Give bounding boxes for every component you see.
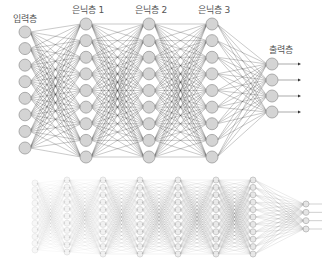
deep-layer-node <box>64 235 70 241</box>
deep-layer-node <box>100 251 106 257</box>
deep-layer-node <box>213 221 219 227</box>
hidden1-node <box>80 118 92 130</box>
deep-layer-node <box>32 220 38 226</box>
hidden2-node <box>143 51 155 63</box>
deep-layer-node <box>250 236 256 242</box>
deep-layer-node <box>250 244 256 250</box>
deep-layer-node <box>32 207 38 213</box>
deep-layer-node <box>137 207 143 213</box>
hidden3-node <box>206 51 218 63</box>
hidden3-node <box>206 18 218 30</box>
deep-layer-node <box>175 192 181 198</box>
hidden2-node <box>143 18 155 30</box>
deep-layer-node <box>175 199 181 205</box>
hidden2-node <box>143 68 155 80</box>
deep-layer-node <box>32 193 38 199</box>
hidden1-node <box>80 68 92 80</box>
deep-layer-node <box>250 177 256 183</box>
deep-layer-node <box>250 192 256 198</box>
deep-layer-node <box>175 251 181 257</box>
deep-layer-node <box>137 229 143 235</box>
deep-layer-node <box>64 199 70 205</box>
deep-layer-node <box>64 227 70 233</box>
deep-layer-node <box>32 214 38 220</box>
top-network-connections <box>30 24 301 157</box>
deep-layer-node <box>100 177 106 183</box>
hidden1-node <box>80 51 92 63</box>
deep-layer-node <box>250 221 256 227</box>
hidden3-node <box>206 85 218 97</box>
deep-layer-node <box>137 214 143 220</box>
deep-layer-node <box>100 244 106 250</box>
deep-layer-node <box>137 244 143 250</box>
hidden-layer-1-label: 은닉층 1 <box>72 3 105 16</box>
deep-layer-node <box>250 184 256 190</box>
hidden2-node <box>143 134 155 146</box>
output-node <box>266 74 278 86</box>
deep-layer-node <box>100 236 106 242</box>
deep-layer-node <box>137 236 143 242</box>
deep-layer-node <box>137 192 143 198</box>
output-node <box>266 90 278 102</box>
deep-layer-node <box>213 229 219 235</box>
deep-layer-node <box>32 187 38 193</box>
input-node <box>19 92 31 104</box>
deep-layer-node <box>137 199 143 205</box>
input-node <box>19 125 31 137</box>
deep-layer-node <box>137 184 143 190</box>
arrow-head-icon <box>298 63 301 66</box>
input-node <box>19 142 31 154</box>
hidden-layer-2-label: 은닉층 2 <box>135 3 168 16</box>
deep-layer-node <box>32 200 38 206</box>
deep-layer-node <box>64 177 70 183</box>
deep-layer-node <box>100 192 106 198</box>
deep-layer-node <box>213 177 219 183</box>
deep-layer-node <box>213 207 219 213</box>
deep-layer-node <box>32 180 38 186</box>
deep-layer-node <box>303 226 309 232</box>
deep-layer-node <box>64 191 70 197</box>
deep-layer-node <box>32 247 38 253</box>
deep-layer-node <box>213 184 219 190</box>
deep-layer-node <box>175 229 181 235</box>
hidden1-node <box>80 35 92 47</box>
deep-layer-node <box>250 199 256 205</box>
deep-layer-node <box>175 177 181 183</box>
arrow-head-icon <box>298 79 301 82</box>
deep-layer-node <box>137 177 143 183</box>
input-node <box>19 76 31 88</box>
hidden2-node <box>143 85 155 97</box>
deep-layer-node <box>100 214 106 220</box>
deep-layer-node <box>100 184 106 190</box>
deep-layer-node <box>175 184 181 190</box>
deep-layer-node <box>250 214 256 220</box>
arrow-head-icon <box>298 111 301 114</box>
deep-layer-node <box>250 229 256 235</box>
hidden2-node <box>143 35 155 47</box>
deep-layer-node <box>137 251 143 257</box>
deep-layer-node <box>32 227 38 233</box>
hidden1-node <box>80 18 92 30</box>
hidden3-node <box>206 35 218 47</box>
input-node <box>19 26 31 38</box>
deep-layer-node <box>137 221 143 227</box>
hidden1-node <box>80 101 92 113</box>
deep-layer-node <box>64 220 70 226</box>
hidden-layer-3-label: 은닉층 3 <box>198 3 231 16</box>
input-node <box>19 59 31 71</box>
deep-layer-node <box>175 244 181 250</box>
deep-layer-node <box>64 242 70 248</box>
deep-layer-node <box>303 201 309 207</box>
hidden2-node <box>143 151 155 163</box>
hidden2-node <box>143 101 155 113</box>
deep-layer-node <box>64 213 70 219</box>
hidden3-node <box>206 101 218 113</box>
deep-layer-node <box>303 209 309 215</box>
deep-layer-node <box>64 249 70 255</box>
arrow-head-icon <box>298 95 301 98</box>
input-node <box>19 109 31 121</box>
deep-layer-node <box>213 214 219 220</box>
hidden1-node <box>80 151 92 163</box>
hidden3-node <box>206 151 218 163</box>
output-layer-label: 출력층 <box>269 43 293 56</box>
